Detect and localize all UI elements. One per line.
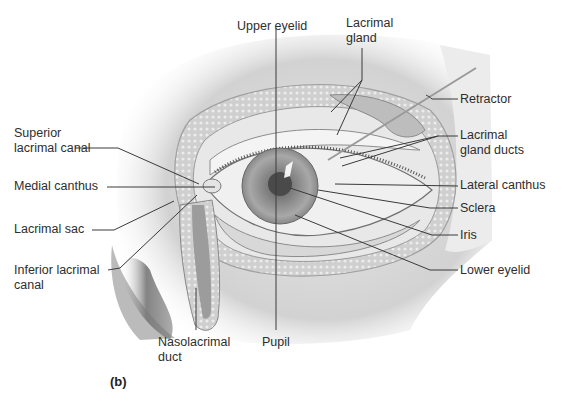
panel-label: (b) (110, 374, 127, 389)
label-lower-eyelid: Lower eyelid (460, 263, 530, 278)
label-inferior-lacrimal-canal-line2: canal (14, 278, 99, 293)
label-lacrimal-gland-ducts: Lacrimal gland ducts (460, 128, 524, 158)
label-superior-lacrimal-canal: Superior lacrimal canal (14, 126, 90, 156)
label-lacrimal-gland-ducts-line1: Lacrimal (460, 128, 524, 143)
label-inferior-lacrimal-canal: Inferior lacrimal canal (14, 263, 99, 293)
label-superior-lacrimal-canal-line1: Superior (14, 126, 90, 141)
label-lacrimal-gland-line1: Lacrimal (346, 16, 393, 31)
label-nasolacrimal-duct-line2: duct (158, 350, 230, 365)
label-retractor: Retractor (460, 92, 511, 107)
label-lacrimal-sac: Lacrimal sac (14, 222, 84, 237)
label-lacrimal-gland-ducts-line2: gland ducts (460, 143, 524, 158)
label-nasolacrimal-duct-line1: Nasolacrimal (158, 335, 230, 350)
label-sclera: Sclera (460, 201, 495, 216)
label-lacrimal-gland-line2: gland (346, 31, 393, 46)
label-iris: Iris (460, 228, 477, 243)
label-inferior-lacrimal-canal-line1: Inferior lacrimal (14, 263, 99, 278)
label-upper-eyelid: Upper eyelid (237, 19, 307, 34)
label-lateral-canthus: Lateral canthus (460, 178, 545, 193)
label-lacrimal-gland: Lacrimal gland (346, 16, 393, 46)
label-superior-lacrimal-canal-line2: lacrimal canal (14, 141, 90, 156)
label-medial-canthus: Medial canthus (14, 179, 98, 194)
label-pupil: Pupil (262, 335, 290, 350)
eye-anatomy-figure: Upper eyelid Lacrimal gland Retractor La… (0, 0, 565, 399)
label-nasolacrimal-duct: Nasolacrimal duct (158, 335, 230, 365)
